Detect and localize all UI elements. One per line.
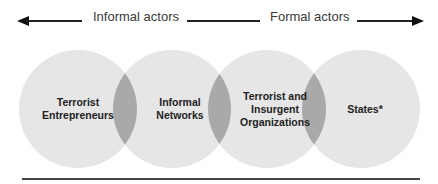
axis-line-right (357, 20, 417, 22)
informal-actors-label: Informal actors (93, 9, 179, 24)
axis-line-middle (187, 20, 260, 22)
bottom-rule (22, 178, 420, 180)
axis-line-left (26, 20, 82, 22)
label-states: States* (306, 50, 424, 168)
formal-actors-label: Formal actors (270, 9, 349, 24)
label-terrorist-entrepreneurs: TerroristEntrepreneurs (19, 50, 137, 168)
arrow-right-icon (412, 15, 424, 27)
